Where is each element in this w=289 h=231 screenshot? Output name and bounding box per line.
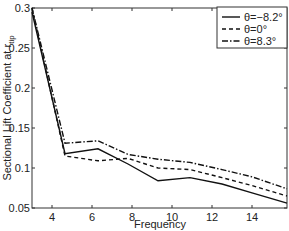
y-tick-label: 0.3 — [15, 2, 30, 14]
legend-entry: θ=−8.2° — [244, 11, 283, 23]
x-tick-label: 6 — [89, 211, 95, 223]
x-tick-label: 12 — [206, 211, 218, 223]
y-axis-label: Sectional Lift Coefficient at rtip — [1, 35, 16, 181]
y-tick-label: 0.1 — [15, 162, 30, 174]
x-tick-label: 4 — [49, 211, 55, 223]
x-axis-label: Frequency — [134, 218, 186, 230]
legend: θ=−8.2°θ=0°θ=8.3° — [217, 7, 287, 48]
legend-entry: θ=8.3° — [244, 35, 276, 47]
y-tick-label: 0.05 — [9, 202, 30, 214]
y-tick-label: 0.2 — [15, 82, 30, 94]
x-tick-label: 14 — [246, 211, 258, 223]
legend-entry: θ=0° — [244, 23, 267, 35]
line-chart: 468101214 0.050.10.150.20.250.3 Frequenc… — [0, 0, 289, 231]
